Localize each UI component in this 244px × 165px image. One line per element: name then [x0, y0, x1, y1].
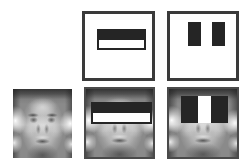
three-rectangle-feature-template [167, 11, 239, 81]
face-image-plain [13, 89, 72, 158]
feature-dark-column-left [188, 22, 201, 46]
feature-light-column-center [201, 22, 211, 46]
three-rectangle-feature-glyph [188, 22, 225, 46]
feature-light-band [97, 40, 146, 51]
two-rectangle-feature-glyph [97, 29, 146, 50]
feature-dark-column-right [211, 96, 228, 123]
feature-light-band [91, 113, 152, 124]
face-image-with-two-rectangle-feature [84, 87, 155, 159]
haar-feature-figure [0, 0, 244, 165]
face-image-with-three-rectangle-feature [167, 87, 239, 159]
two-rectangle-feature-template [82, 11, 155, 81]
feature-dark-column-right [212, 22, 225, 46]
feature-dark-column-left [181, 96, 198, 123]
feature-dark-band [91, 102, 152, 113]
feature-light-column-center [198, 96, 211, 123]
feature-dark-band [97, 29, 146, 40]
face-photo [13, 89, 72, 158]
three-rectangle-feature-overlay [181, 96, 228, 123]
empty-cell [2, 11, 72, 81]
two-rectangle-feature-overlay [91, 102, 152, 124]
